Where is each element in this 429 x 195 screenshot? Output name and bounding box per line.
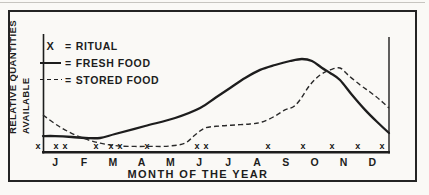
ritual-x-mark: x (353, 141, 363, 151)
ritual-x-symbol: X (47, 40, 55, 52)
month-label: D (365, 156, 379, 168)
legend-item-fresh-food: = FRESH FOOD (38, 54, 159, 71)
ritual-symbol-column: X (38, 40, 63, 52)
month-label: A (135, 156, 149, 168)
ritual-x-mark: x (142, 141, 152, 151)
month-label: M (163, 156, 177, 168)
ritual-x-mark: x (60, 141, 70, 151)
equals-sign: = (65, 74, 72, 86)
month-label: J (221, 156, 235, 168)
month-label: S (279, 156, 293, 168)
ritual-x-mark: x (377, 141, 387, 151)
legend: X = RITUAL = FRESH FOOD = STORED FOOD (38, 37, 159, 88)
ritual-x-mark: x (115, 141, 125, 151)
ritual-x-mark: x (298, 141, 308, 151)
month-label: J (192, 156, 206, 168)
ritual-x-mark: x (263, 141, 273, 151)
ritual-x-mark: x (91, 141, 101, 151)
stored-food-symbol-column (38, 79, 63, 81)
equals-sign: = (65, 40, 72, 52)
equals-sign: = (65, 57, 72, 69)
ritual-x-mark: x (201, 141, 211, 151)
legend-label-ritual: RITUAL (76, 40, 118, 52)
stored-food-line-swatch (40, 79, 62, 81)
legend-item-stored-food: = STORED FOOD (38, 71, 159, 88)
fresh-food-symbol-column (38, 62, 63, 64)
x-axis-title: MONTH OF THE YEAR (107, 168, 289, 180)
month-label: M (106, 156, 120, 168)
legend-item-ritual: X = RITUAL (38, 37, 159, 54)
legend-label-stored-food: STORED FOOD (76, 74, 159, 86)
month-label: N (336, 156, 350, 168)
month-label: A (250, 156, 264, 168)
fresh-food-line-swatch (40, 62, 61, 64)
figure-scan: RELATIVE QUANTITIES AVAILABLE X = RITUAL… (0, 0, 429, 195)
ritual-x-mark: x (327, 141, 337, 151)
month-label: J (48, 156, 62, 168)
legend-label-fresh-food: FRESH FOOD (76, 57, 151, 69)
month-label: O (308, 156, 322, 168)
month-label: F (77, 156, 91, 168)
ritual-x-mark: x (33, 141, 43, 151)
